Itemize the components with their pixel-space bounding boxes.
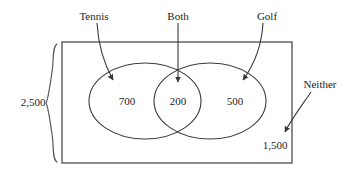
- universe-total-label: 2,500: [21, 97, 46, 108]
- both-value: 200: [170, 96, 187, 107]
- tennis-only-value: 700: [119, 96, 136, 107]
- both-callout-label: Both: [167, 11, 188, 22]
- neither-value: 1,500: [263, 140, 288, 151]
- golf-only-value: 500: [227, 96, 244, 107]
- golf-callout-label: Golf: [257, 11, 277, 22]
- venn-diagram-figure: Tennis Both Golf Neither 2,500 700 200 5…: [0, 0, 352, 182]
- neither-callout-label: Neither: [304, 79, 337, 90]
- neither-callout-arrow: [285, 92, 311, 132]
- venn-diagram-graphics: [0, 0, 352, 182]
- universe-brace: [46, 44, 57, 162]
- tennis-callout-label: Tennis: [79, 11, 108, 22]
